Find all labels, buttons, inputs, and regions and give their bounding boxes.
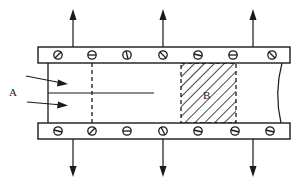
- curved-end: [278, 63, 282, 123]
- label-b: B: [203, 89, 210, 101]
- channel: [48, 63, 282, 123]
- arrow-down-icon: [160, 139, 167, 177]
- arrow-right-icon: [26, 76, 68, 87]
- arrow-up-icon: [160, 9, 167, 47]
- arrow-down-icon: [250, 139, 257, 177]
- label-a: A: [9, 86, 17, 98]
- bottom-bar: [38, 123, 290, 139]
- arrow-up-icon: [250, 9, 257, 47]
- arrow-up-icon: [70, 9, 77, 47]
- diagram-svg: A B: [0, 0, 300, 190]
- arrow-down-icon: [70, 139, 77, 177]
- top-bar: [38, 47, 290, 63]
- diagram-canvas: A B: [0, 0, 300, 190]
